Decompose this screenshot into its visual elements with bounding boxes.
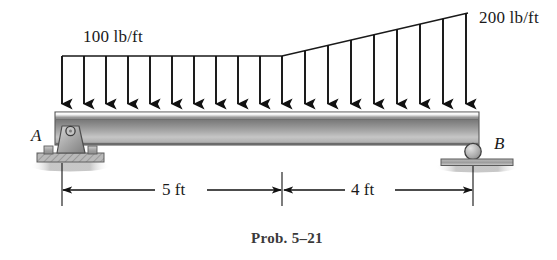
pin-support-bolt-right [88, 146, 97, 154]
roller-support-b [435, 143, 519, 172]
pin-support-bolt-left [44, 146, 53, 154]
figure-container: 100 lb/ft 200 lb/ft A B 5 ft 4 ft Prob. … [0, 0, 557, 260]
pin-support-pin-center [69, 130, 72, 133]
beam-group [55, 112, 479, 145]
load-label-right: 200 lb/ft [479, 8, 539, 28]
support-label-b: B [494, 134, 504, 154]
beam-body [55, 112, 479, 145]
dimension-label-5ft: 5 ft [162, 180, 185, 200]
dimension-group [62, 163, 473, 206]
roller-support-base-plate [441, 159, 513, 166]
roller-support-wheel [465, 143, 481, 159]
dimension-label-4ft: 4 ft [351, 180, 374, 200]
load-arrows-uniform [62, 56, 282, 104]
figure-caption: Prob. 5–21 [251, 230, 323, 247]
support-label-a: A [31, 126, 41, 146]
load-label-left: 100 lb/ft [83, 27, 143, 47]
load-arrows-ramp [305, 14, 466, 105]
